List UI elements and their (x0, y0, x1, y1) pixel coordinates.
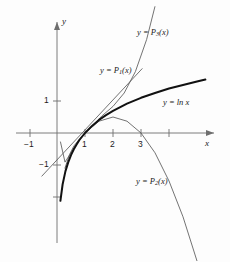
curve-label-p1-prefix: y = P (100, 65, 119, 75)
curve-label-p1: y = P1(x) (100, 66, 131, 76)
curve-label-p2: y = P2(x) (136, 177, 167, 187)
curve-label-p1-suffix: (x) (122, 65, 131, 75)
curve-label-p3-prefix: y = P (137, 27, 156, 37)
curve-label-ln-x: y = ln x (163, 98, 189, 107)
y-axis-arrowhead (54, 22, 60, 30)
x-axis-arrowhead (206, 130, 214, 136)
y-axis-label: y (62, 17, 66, 26)
x-tick-label-2: 2 (110, 140, 115, 149)
x-tick-label-3: 3 (138, 140, 143, 149)
x-axis-label: x (205, 139, 209, 148)
x-tick-label-1: 1 (82, 140, 87, 149)
curve-label-p3-suffix: (x) (159, 27, 168, 37)
x-tick-label--1: −1 (24, 140, 34, 149)
curve-label-p3: y = P3(x) (137, 28, 168, 38)
taylor-polynomial-figure: −1 1 2 3 1 −1 x y y = P3(x) y = P1(x) y … (0, 0, 230, 262)
y-tick-label--1: −1 (39, 160, 49, 169)
y-tick-label-1: 1 (44, 96, 49, 105)
curve-label-p2-suffix: (x) (158, 176, 167, 186)
plot-canvas (0, 0, 230, 262)
curve-label-p2-prefix: y = P (136, 176, 155, 186)
axes-group (16, 22, 214, 243)
